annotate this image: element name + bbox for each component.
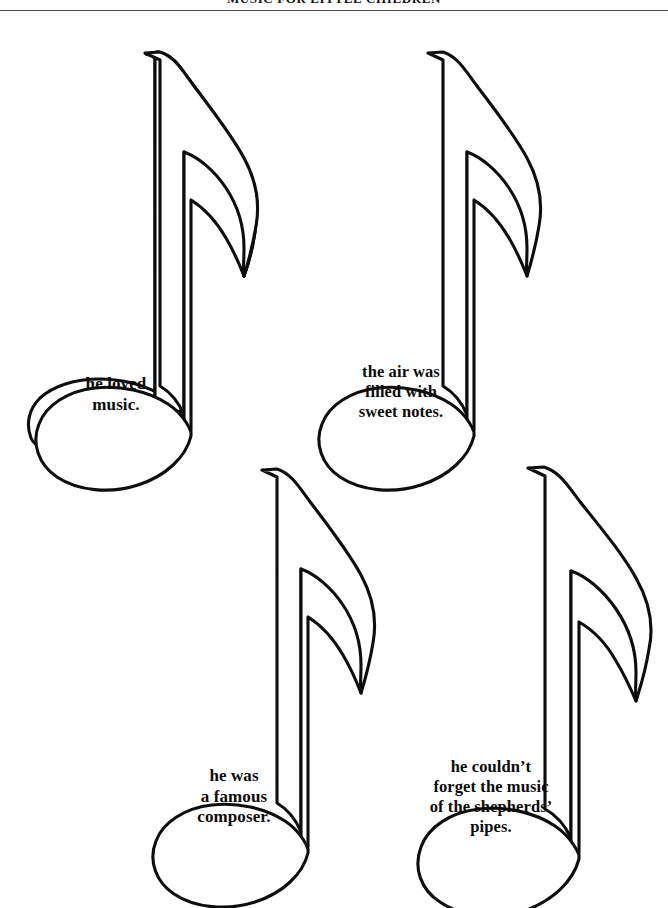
eighth-note-icon: [28, 52, 256, 448]
eighth-note-2-group: [319, 52, 541, 490]
note-artwork-canvas: [0, 0, 668, 908]
eighth-note-1-group: [36, 52, 258, 490]
eighth-note-4-group: [418, 467, 651, 908]
eighth-note-3-group: [153, 469, 375, 907]
